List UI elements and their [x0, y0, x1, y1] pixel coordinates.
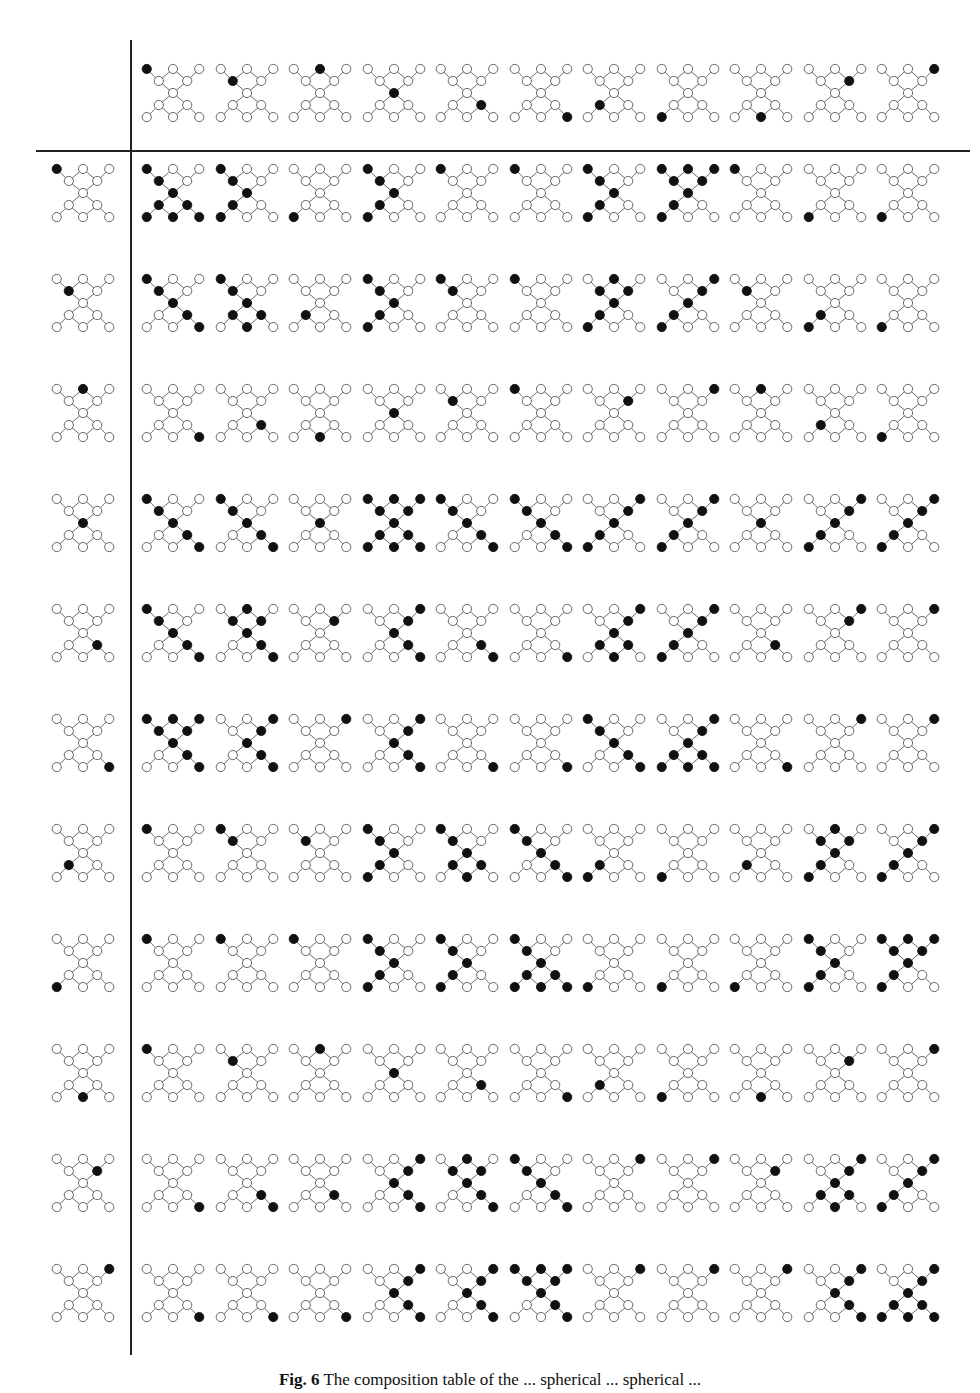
graph-glyph-icon: [285, 488, 355, 558]
table-cell: [359, 598, 429, 668]
table-cell: [579, 378, 649, 448]
graph-glyph-icon: [726, 378, 796, 448]
table-cell: [138, 1038, 208, 1108]
graph-glyph-icon: [506, 598, 576, 668]
graph-glyph-icon: [653, 378, 723, 448]
graph-glyph-icon: [48, 928, 118, 998]
row-label-cell: [48, 1258, 118, 1328]
graph-glyph-icon: [432, 158, 502, 228]
graph-glyph-icon: [138, 1148, 208, 1218]
table-cell: [726, 708, 796, 778]
graph-glyph-icon: [212, 378, 282, 448]
table-cell: [138, 1148, 208, 1218]
graph-glyph-icon: [726, 928, 796, 998]
graph-glyph-icon: [800, 1038, 870, 1108]
table-cell: [359, 268, 429, 338]
graph-glyph-icon: [138, 1258, 208, 1328]
table-cell: [359, 708, 429, 778]
graph-glyph-icon: [138, 378, 208, 448]
table-cell: [726, 378, 796, 448]
graph-glyph-icon: [48, 598, 118, 668]
graph-glyph-icon: [800, 928, 870, 998]
table-cell: [506, 928, 576, 998]
table-cell: [873, 1148, 943, 1218]
graph-glyph-icon: [653, 708, 723, 778]
table-cell: [359, 928, 429, 998]
table-cell: [726, 1148, 796, 1218]
table-cell: [873, 1038, 943, 1108]
graph-glyph-icon: [285, 268, 355, 338]
header-cell: [873, 58, 943, 128]
table-cell: [653, 598, 723, 668]
table-cell: [873, 818, 943, 888]
graph-glyph-icon: [432, 268, 502, 338]
graph-glyph-icon: [48, 378, 118, 448]
graph-glyph-icon: [653, 818, 723, 888]
graph-glyph-icon: [800, 378, 870, 448]
table-cell: [873, 928, 943, 998]
row-label-cell: [48, 928, 118, 998]
table-cell: [579, 268, 649, 338]
graph-glyph-icon: [506, 928, 576, 998]
table-cell: [800, 378, 870, 448]
table-cell: [579, 818, 649, 888]
graph-glyph-icon: [285, 158, 355, 228]
graph-glyph-icon: [212, 1258, 282, 1328]
graph-glyph-icon: [285, 818, 355, 888]
graph-glyph-icon: [579, 378, 649, 448]
table-cell: [506, 268, 576, 338]
graph-glyph-icon: [212, 58, 282, 128]
graph-glyph-icon: [873, 158, 943, 228]
graph-glyph-icon: [506, 1148, 576, 1218]
table-cell: [432, 488, 502, 558]
table-cell: [285, 818, 355, 888]
graph-glyph-icon: [579, 708, 649, 778]
table-cell: [579, 708, 649, 778]
graph-glyph-icon: [432, 928, 502, 998]
table-cell: [873, 488, 943, 558]
table-cell: [579, 928, 649, 998]
graph-glyph-icon: [138, 268, 208, 338]
graph-glyph-icon: [48, 818, 118, 888]
figure-caption: Fig. 6 The composition table of the ... …: [0, 1370, 980, 1390]
table-cell: [800, 598, 870, 668]
header-cell: [359, 58, 429, 128]
table-cell: [506, 598, 576, 668]
graph-glyph-icon: [506, 488, 576, 558]
table-cell: [138, 1258, 208, 1328]
graph-glyph-icon: [359, 598, 429, 668]
row-label-cell: [48, 488, 118, 558]
graph-glyph-icon: [800, 268, 870, 338]
header-cell: [579, 58, 649, 128]
graph-glyph-icon: [359, 1148, 429, 1218]
table-cell: [800, 1258, 870, 1328]
row-label-cell: [48, 268, 118, 338]
header-cell: [653, 58, 723, 128]
table-cell: [432, 268, 502, 338]
graph-glyph-icon: [726, 1258, 796, 1328]
graph-glyph-icon: [285, 598, 355, 668]
graph-glyph-icon: [138, 818, 208, 888]
table-cell: [800, 818, 870, 888]
graph-glyph-icon: [579, 488, 649, 558]
graph-glyph-icon: [138, 58, 208, 128]
row-label-cell: [48, 158, 118, 228]
table-cell: [285, 1038, 355, 1108]
row-label-cell: [48, 1038, 118, 1108]
graph-glyph-icon: [800, 598, 870, 668]
table-cell: [800, 158, 870, 228]
graph-glyph-icon: [359, 268, 429, 338]
graph-glyph-icon: [506, 1038, 576, 1108]
graph-glyph-icon: [800, 1258, 870, 1328]
table-cell: [653, 1038, 723, 1108]
graph-glyph-icon: [653, 1038, 723, 1108]
graph-glyph-icon: [653, 268, 723, 338]
graph-glyph-icon: [726, 1038, 796, 1108]
graph-glyph-icon: [653, 1148, 723, 1218]
table-cell: [285, 598, 355, 668]
graph-glyph-icon: [873, 378, 943, 448]
graph-glyph-icon: [212, 708, 282, 778]
caption-label: Fig. 6: [279, 1370, 320, 1389]
table-cell: [726, 818, 796, 888]
table-cell: [359, 1148, 429, 1218]
